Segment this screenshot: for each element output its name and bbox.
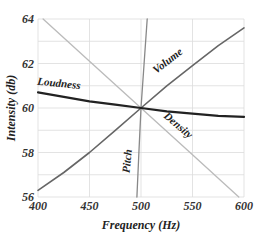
y-axis-ticks: 5658606264 <box>22 12 34 204</box>
line-chart: DensityPitchVolumeLoudness 5658606264 40… <box>0 0 265 237</box>
x-tick-label: 600 <box>235 199 253 213</box>
y-tick-label: 64 <box>22 12 34 26</box>
series-label-volume: Volume <box>150 45 184 76</box>
x-tick-label: 400 <box>28 199 47 213</box>
x-tick-label: 450 <box>80 199 99 213</box>
y-tick-label: 58 <box>22 146 34 160</box>
series-label-loudness: Loudness <box>36 75 81 92</box>
series-labels: DensityPitchVolumeLoudness <box>36 45 196 173</box>
x-axis-ticks: 400450500550600 <box>28 199 253 213</box>
x-tick-label: 500 <box>132 199 150 213</box>
y-tick-label: 60 <box>22 101 34 115</box>
x-tick-label: 550 <box>184 199 202 213</box>
x-axis-label: Frequency (Hz) <box>101 218 180 232</box>
y-axis-label: Intensity (db) <box>4 75 18 142</box>
y-tick-label: 62 <box>22 57 34 71</box>
series-label-pitch: Pitch <box>120 148 134 173</box>
